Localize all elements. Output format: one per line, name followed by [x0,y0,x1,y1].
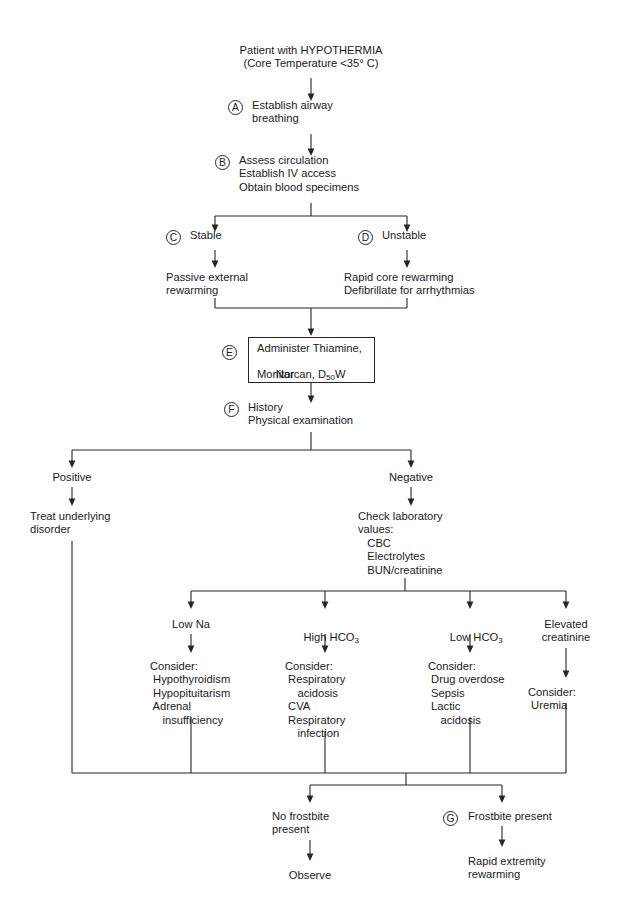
node-e-w-text: W [335,368,346,380]
node-frostbite-present: Frostbite present [468,810,552,823]
node-low-hco3-subscript: 3 [498,636,502,645]
node-consider-high-hco3: Consider: Respiratory acidosis CVA Respi… [285,660,345,740]
node-low-hco3: Low HCO3 [437,618,502,661]
node-c-stable: Stable [190,229,222,242]
node-rapid-core-rewarming: Rapid core rewarming Defibrillate for ar… [344,271,475,298]
hypothermia-algorithm-diagram: Patient with HYPOTHERMIA (Core Temperatu… [0,0,625,923]
node-e-line-3: Monitor [257,368,294,381]
badge-e: E [222,345,237,360]
node-positive: Positive [52,471,91,484]
badge-f: F [224,402,239,417]
node-f-history-physical: History Physical examination [248,401,353,428]
node-high-hco3-text: High HCO [303,631,354,643]
node-e-subscript: 50 [326,373,335,382]
node-e-administer-box: Administer Thiamine, Narcan, D50W Monito… [248,337,375,383]
node-observe: Observe [289,869,331,882]
node-d-unstable: Unstable [382,229,426,242]
node-high-hco3-subscript: 3 [354,636,358,645]
node-low-na: Low Na [172,618,210,631]
node-a-establish-airway: Establish airway breathing [252,99,333,126]
badge-a: A [228,100,243,115]
node-passive-external-rewarming: Passive external rewarming [166,271,248,298]
node-low-hco3-text: Low HCO [450,631,499,643]
node-rapid-extremity-rewarming: Rapid extremity rewarming [468,855,546,882]
node-negative: Negative [389,471,433,484]
node-treat-underlying-disorder: Treat underlying disorder [30,510,110,537]
badge-b: B [215,155,230,170]
connector-lines [0,0,625,923]
node-e-line-1: Administer Thiamine, [257,342,362,355]
node-start: Patient with HYPOTHERMIA (Core Temperatu… [240,44,383,71]
badge-g: G [443,811,458,826]
node-consider-low-na: Consider: Hypothyroidism Hypopituitarism… [150,660,230,727]
node-consider-elevated-creatinine: Consider: Uremia [528,686,576,713]
node-no-frostbite-present: No frostbite present [272,810,329,837]
node-b-assess-circulation: Assess circulation Establish IV access O… [239,154,359,194]
badge-d: D [358,230,373,245]
node-elevated-creatinine: Elevated creatinine [542,618,591,645]
badge-c: C [166,230,181,245]
node-check-laboratory-values: Check laboratory values: CBC Electrolyte… [358,510,443,577]
node-high-hco3: High HCO3 [291,618,359,661]
node-consider-low-hco3: Consider: Drug overdose Sepsis Lactic ac… [428,660,505,727]
